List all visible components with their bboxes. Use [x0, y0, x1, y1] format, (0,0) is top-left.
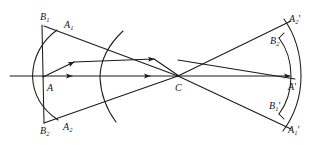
label-A1-prime: A1'	[288, 125, 299, 135]
tick-B1-prime	[279, 114, 284, 119]
tick-B2-prime	[279, 33, 284, 38]
chief-ray-upper	[44, 26, 178, 76]
left-wavefront-arc	[33, 30, 59, 120]
exit-ray-upper	[178, 21, 291, 76]
oblique-ray-incoming-2	[74, 59, 154, 62]
label-A-prime: A'	[288, 82, 296, 92]
chief-ray-lower	[44, 76, 178, 123]
oblique-ray-incoming-3	[154, 59, 179, 76]
label-A2-prime: A2'	[289, 14, 300, 24]
oblique-ray-incoming-1	[43, 62, 74, 77]
label-A1: A1	[64, 20, 73, 30]
object-plane-line	[42, 25, 44, 123]
label-B2: B2	[40, 126, 49, 136]
right-wavefront-arc	[283, 19, 301, 131]
optical-ray-diagram: B1 A1 A B2 A2 C A2' B2 A' B1' A1'	[0, 0, 324, 145]
label-C: C	[175, 83, 182, 93]
label-B1-prime: B1'	[269, 101, 280, 111]
label-B1: B1	[40, 12, 49, 22]
label-A2: A2	[63, 122, 72, 132]
label-B2-prime: B2	[270, 36, 279, 46]
label-A: A	[47, 83, 53, 93]
